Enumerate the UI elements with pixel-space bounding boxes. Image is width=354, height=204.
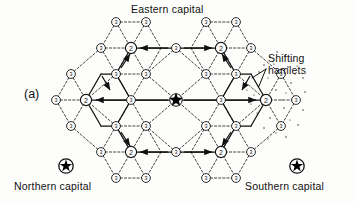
node-h-30[interactable]: 3 <box>232 174 241 183</box>
node-label: 3 <box>175 149 178 155</box>
node-label: 2 <box>129 45 133 52</box>
node-label: 3 <box>130 97 133 103</box>
node-label: 3 <box>175 45 178 51</box>
node-h-28[interactable]: 3 <box>142 174 151 183</box>
node-h-04[interactable]: 3 <box>232 18 241 27</box>
node-h-17[interactable]: 3 <box>292 96 301 105</box>
node-h-07[interactable]: 3 <box>247 44 256 53</box>
node-h-15[interactable]: 3 <box>127 96 136 105</box>
eastern-capital-label: Eastern capital <box>131 4 203 16</box>
central-place-diagram: 222222333333333333333333333333333333 Eas… <box>0 0 354 204</box>
node-label: 2 <box>84 97 88 104</box>
node-label: 3 <box>205 19 208 25</box>
node-label: 3 <box>100 45 103 51</box>
southern-capital-label: Southern capital <box>245 181 324 193</box>
node-label: 3 <box>250 45 253 51</box>
node-label: 3 <box>235 123 238 129</box>
node-label: 3 <box>115 175 118 181</box>
node-h-01[interactable]: 3 <box>112 18 121 27</box>
node-h-24[interactable]: 3 <box>97 148 106 157</box>
lattice-svg: 222222333333333333333333333333333333 <box>0 0 354 204</box>
node-label: 3 <box>145 123 148 129</box>
node-h-06[interactable]: 3 <box>172 44 181 53</box>
node-label: 3 <box>295 97 298 103</box>
node-h-18[interactable]: 3 <box>67 122 76 131</box>
node-label: 3 <box>205 123 208 129</box>
node-h-12[interactable]: 3 <box>67 70 76 79</box>
northern-capital-label: Northern capital <box>14 181 91 193</box>
node-h-11[interactable]: 3 <box>232 70 241 79</box>
node-h-03[interactable]: 3 <box>202 18 211 27</box>
node-h-27[interactable]: 3 <box>112 174 121 183</box>
node-t-w[interactable]: 2 <box>80 94 91 105</box>
node-label: 3 <box>115 19 118 25</box>
node-cap-south[interactable] <box>290 159 304 173</box>
node-h-14[interactable]: 3 <box>52 96 61 105</box>
node-center[interactable] <box>169 93 183 107</box>
node-label: 3 <box>145 175 148 181</box>
shifting-hamlets-label: Shifting hamlets <box>268 53 306 77</box>
node-label: 2 <box>264 97 268 104</box>
node-label: 3 <box>220 97 223 103</box>
node-label: 3 <box>205 175 208 181</box>
node-t-sw[interactable]: 2 <box>125 146 136 157</box>
node-cap-north[interactable] <box>59 159 73 173</box>
node-h-23[interactable]: 3 <box>232 122 241 131</box>
node-label: 3 <box>145 71 148 77</box>
node-label: 3 <box>235 71 238 77</box>
node-t-nw[interactable]: 2 <box>125 42 136 53</box>
node-label: 2 <box>129 149 133 156</box>
node-h-25[interactable]: 3 <box>172 148 181 157</box>
node-h-09[interactable]: 3 <box>142 70 151 79</box>
node-label: 3 <box>115 123 118 129</box>
node-label: 3 <box>55 97 58 103</box>
node-label: 3 <box>235 175 238 181</box>
node-h-19[interactable]: 3 <box>277 122 286 131</box>
node-t-e[interactable]: 2 <box>260 94 271 105</box>
node-layer: 222222333333333333333333333333333333 <box>52 18 301 183</box>
node-t-se[interactable]: 2 <box>215 146 226 157</box>
node-h-08[interactable]: 3 <box>112 70 121 79</box>
capital-marker-layer <box>59 159 304 173</box>
node-label: 3 <box>70 123 73 129</box>
node-label: 2 <box>219 45 223 52</box>
node-h-26[interactable]: 3 <box>247 148 256 157</box>
node-h-10[interactable]: 3 <box>202 70 211 79</box>
node-label: 3 <box>235 19 238 25</box>
node-h-21[interactable]: 3 <box>142 122 151 131</box>
node-h-16[interactable]: 3 <box>217 96 226 105</box>
node-h-20[interactable]: 3 <box>112 122 121 131</box>
node-label: 3 <box>100 149 103 155</box>
node-label: 3 <box>205 71 208 77</box>
node-h-29[interactable]: 3 <box>202 174 211 183</box>
node-t-ne[interactable]: 2 <box>215 42 226 53</box>
node-label: 3 <box>250 149 253 155</box>
node-label: 3 <box>145 19 148 25</box>
node-h-05[interactable]: 3 <box>97 44 106 53</box>
node-label: 3 <box>115 71 118 77</box>
node-label: 3 <box>70 71 73 77</box>
node-h-02[interactable]: 3 <box>142 18 151 27</box>
panel-label: (a) <box>24 87 39 101</box>
node-label: 3 <box>280 123 283 129</box>
node-label: 2 <box>219 149 223 156</box>
node-h-22[interactable]: 3 <box>202 122 211 131</box>
